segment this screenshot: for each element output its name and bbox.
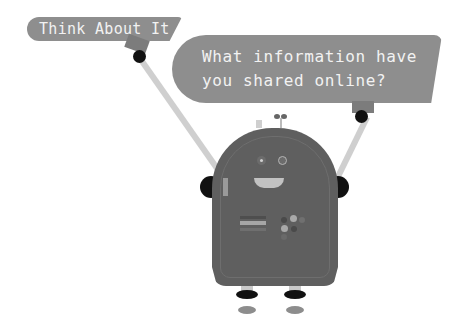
left-hand-joint	[133, 50, 146, 63]
side-slot	[223, 178, 228, 196]
button-dot-2	[290, 215, 297, 222]
think-about-it-sign: Think About It	[27, 17, 182, 41]
robot-body-panel	[220, 136, 330, 278]
stripe-2	[240, 221, 266, 225]
stripe-1	[240, 216, 266, 219]
stripe-3	[240, 228, 266, 231]
right-foot	[286, 306, 304, 314]
sprout-icon	[274, 114, 288, 128]
robot-body	[212, 128, 338, 286]
button-dot-1	[281, 217, 287, 223]
sign-title: Think About It	[39, 20, 170, 38]
button-dot-6	[281, 234, 287, 240]
right-hand-joint	[355, 110, 368, 123]
right-eye	[278, 156, 287, 165]
left-knee-joint	[236, 290, 258, 299]
right-knee-joint	[284, 290, 306, 299]
button-dot-3	[299, 217, 305, 223]
antenna-stub	[256, 120, 262, 128]
question-sign: What information have you shared online?	[172, 35, 442, 103]
question-line-2: you shared online?	[202, 71, 386, 90]
button-dot-5	[291, 226, 297, 232]
button-dot-4	[281, 225, 288, 232]
question-line-1: What information have	[202, 47, 417, 66]
left-foot	[238, 306, 256, 314]
left-eye	[257, 156, 266, 165]
